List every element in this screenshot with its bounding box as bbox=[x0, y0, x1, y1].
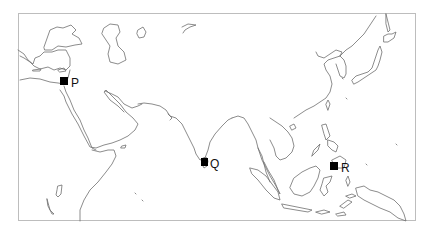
japan-honshu bbox=[352, 46, 382, 84]
ryukyu-dot bbox=[346, 98, 347, 99]
marker-q-square-icon bbox=[201, 158, 208, 166]
timor bbox=[340, 200, 352, 208]
red-sea-west bbox=[64, 86, 96, 150]
map-canvas: P Q R bbox=[0, 0, 431, 239]
china-coast bbox=[294, 50, 342, 118]
seram bbox=[346, 194, 356, 198]
jeju-dot bbox=[342, 78, 343, 79]
lesser-sunda bbox=[316, 210, 346, 216]
korea-coast bbox=[336, 56, 346, 78]
palawan bbox=[312, 144, 320, 156]
comoros-island bbox=[47, 199, 54, 214]
marker-r-square-icon bbox=[330, 162, 338, 170]
japan-hokkaido bbox=[384, 32, 396, 42]
chagos-dot bbox=[142, 200, 143, 201]
new-guinea bbox=[356, 186, 406, 221]
lake-balkhash bbox=[182, 24, 196, 33]
marker-r-label: R bbox=[341, 161, 350, 175]
socotra bbox=[121, 145, 126, 148]
caspian-sea bbox=[102, 24, 126, 64]
philippines-luzon bbox=[322, 124, 330, 140]
madagascar bbox=[56, 185, 62, 197]
marker-p-square-icon bbox=[60, 77, 68, 85]
gulf-of-khambhat bbox=[168, 114, 172, 120]
manchuria-coast bbox=[340, 16, 376, 56]
philippines-visayas bbox=[328, 140, 338, 152]
marker-p-label: P bbox=[71, 76, 79, 90]
pacific-island-dot-1 bbox=[396, 144, 397, 145]
east-africa-coast bbox=[80, 150, 116, 221]
india-coast bbox=[138, 103, 232, 160]
anatolia-coast bbox=[18, 50, 70, 70]
maldives-dot bbox=[135, 193, 136, 194]
java bbox=[282, 204, 312, 212]
pacific-island-dot-2 bbox=[366, 164, 367, 165]
aral-sea bbox=[137, 27, 146, 38]
marker-q-label: Q bbox=[210, 157, 219, 171]
black-sea-coast bbox=[44, 25, 82, 50]
borneo bbox=[290, 166, 320, 196]
hainan bbox=[290, 124, 296, 130]
marker-q[interactable]: Q bbox=[201, 157, 219, 171]
persian-gulf bbox=[105, 91, 142, 108]
crete bbox=[33, 69, 41, 71]
marker-p[interactable]: P bbox=[60, 76, 79, 90]
halmahera bbox=[346, 176, 350, 186]
taiwan bbox=[326, 100, 330, 110]
sulawesi bbox=[320, 176, 332, 196]
sakhalin bbox=[386, 14, 390, 32]
indochina-coast bbox=[270, 118, 294, 160]
arabia-coast bbox=[60, 90, 138, 148]
